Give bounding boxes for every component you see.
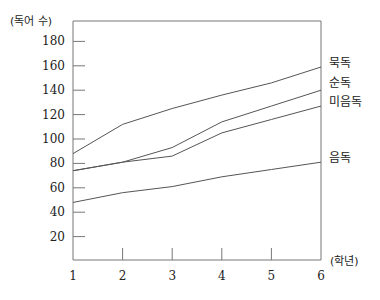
plot-frame [73,21,321,260]
line-chart: 20406080100120140160180 123456 묵독순독미음독음독… [0,0,380,300]
y-tick-label: 60 [50,181,65,195]
series-line [73,106,321,171]
y-tick-label: 100 [42,132,65,146]
y-tick-label: 40 [50,205,65,219]
y-tick-label: 160 [42,59,65,73]
x-tick-label: 1 [69,269,77,283]
y-tick-label: 180 [42,34,65,48]
x-axis: 123456 [69,248,325,283]
y-tick-label: 20 [50,230,65,244]
x-tick-label: 6 [317,269,325,283]
y-axis: 20406080100120140160180 [42,34,85,243]
series-label: 순독 [329,76,351,90]
x-tick-label: 4 [218,269,226,283]
y-tick-label: 80 [50,156,65,170]
y-tick-label: 140 [42,83,65,97]
y-tick-label: 120 [42,108,65,122]
series-line [73,162,321,202]
series-line [73,67,321,154]
x-tick-label: 5 [268,269,276,283]
x-tick-label: 3 [168,269,176,283]
series-label: 미음독 [329,95,362,109]
series-label: 음독 [329,151,351,165]
y-axis-unit-label: (독어 수) [10,15,52,28]
series-lines [73,67,321,202]
series-label: 묵독 [329,56,351,70]
x-tick-label: 2 [119,269,127,283]
series-labels: 묵독순독미음독음독 [329,56,362,165]
x-axis-unit-label: (학년) [330,255,359,268]
